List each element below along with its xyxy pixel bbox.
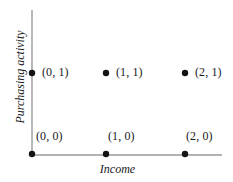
- point-1-1-marker: [103, 70, 109, 76]
- point-0-0-label: (0, 0): [36, 130, 63, 142]
- point-1-1-label: (1, 1): [116, 66, 143, 78]
- plot-canvas: [0, 0, 233, 182]
- point-1-0-label: (1, 0): [108, 130, 135, 142]
- point-2-0-marker: [182, 151, 188, 157]
- y-axis-title: Purchasing activity: [14, 17, 28, 137]
- data-point-markers: [29, 70, 188, 157]
- point-0-1-marker: [29, 70, 35, 76]
- point-2-0-label: (2, 0): [186, 130, 213, 142]
- scatter-plot-figure: (0, 0)(1, 0)(2, 0)(0, 1)(1, 1)(2, 1) Inc…: [0, 0, 233, 182]
- point-0-1-label: (0, 1): [42, 66, 69, 78]
- x-axis-title: Income: [0, 163, 233, 175]
- point-1-0-marker: [103, 151, 109, 157]
- point-2-1-label: (2, 1): [195, 66, 222, 78]
- point-0-0-marker: [29, 151, 35, 157]
- point-2-1-marker: [182, 70, 188, 76]
